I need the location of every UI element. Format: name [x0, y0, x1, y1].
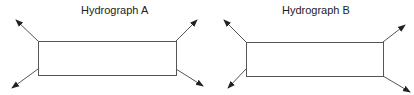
arrow-icon: [228, 69, 246, 88]
hydrograph-a-box: [39, 42, 177, 76]
arrow-icon: [383, 76, 410, 92]
hydrograph-diagrams: [0, 0, 414, 95]
arrow-icon: [176, 20, 197, 41]
hydrograph-b-box: [247, 43, 384, 77]
arrow-icon: [12, 69, 38, 88]
arrow-icon: [224, 20, 246, 42]
arrow-icon: [16, 20, 38, 41]
arrow-icon: [383, 25, 405, 42]
arrow-icon: [176, 69, 203, 86]
